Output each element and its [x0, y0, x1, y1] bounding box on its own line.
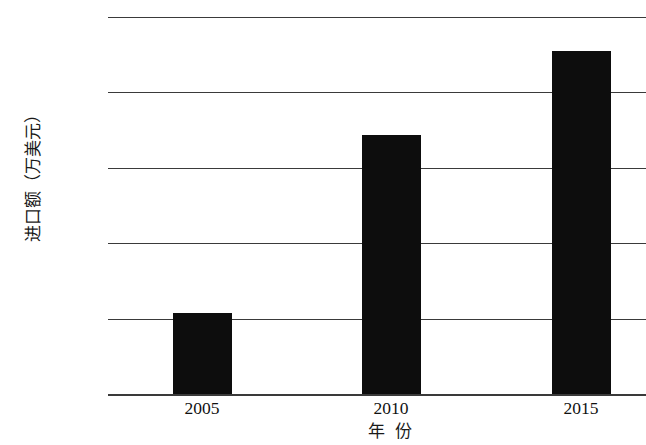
gridline-25000 — [108, 17, 646, 18]
bar-chart: 进口额（万美元） 25 000 20 000 15 000 10 000 5 0… — [0, 0, 646, 445]
y-axis-title: 进口额（万美元） — [25, 94, 42, 254]
x-axis-title: 年 份 — [0, 423, 646, 440]
x-tick-label-2005: 2005 — [142, 400, 262, 418]
bar-2015 — [552, 51, 611, 394]
axis-baseline-0 — [108, 394, 646, 396]
bar-2010 — [362, 135, 421, 394]
bar-2005 — [173, 313, 232, 394]
plot-area — [108, 17, 646, 394]
x-axis-title-text: 年 份 — [368, 423, 413, 440]
x-tick-label-2015: 2015 — [521, 400, 641, 418]
x-tick-label-2010: 2010 — [331, 400, 451, 418]
